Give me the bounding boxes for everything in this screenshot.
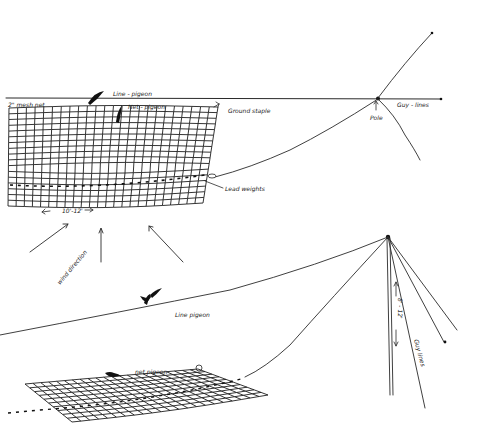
label-wind-direction: wind direction [55, 248, 88, 285]
ground-staple-icon [214, 102, 219, 107]
upper-swivel [208, 174, 216, 178]
mesh-line [32, 107, 35, 207]
label-lower-net-pigeon: net pigeon [135, 368, 167, 376]
mesh-line [57, 106, 62, 207]
label-lower-guy-lines: Guy lines [412, 338, 427, 367]
upper-guy-stake-right [440, 98, 443, 101]
mesh-line [73, 106, 79, 208]
upper-guy-line-bottom [378, 99, 420, 160]
mesh-line [146, 106, 157, 207]
lower-pull-line [245, 237, 388, 377]
lower-pole [387, 238, 390, 395]
upper-net-mesh [8, 106, 218, 208]
label-lead-weights: Lead weights [225, 185, 265, 193]
mesh-line [16, 108, 18, 207]
mesh-line [65, 106, 70, 207]
lower-line-pigeon-cord [0, 237, 388, 335]
mesh-line [24, 107, 26, 206]
mesh-line [41, 107, 44, 207]
upper-guy-line-top [378, 33, 432, 98]
mesh-line [195, 107, 209, 204]
label-net-width: 10'-12' [62, 207, 83, 214]
wind-arrow-right [149, 226, 183, 262]
mesh-line [8, 108, 9, 206]
label-line-pigeon: Line - pigeon [113, 90, 152, 98]
pigeon-net-diagram: Line - pigeon 2" mesh net Net - pigeon G… [0, 0, 480, 443]
label-mesh-net: 2" mesh net [8, 101, 45, 108]
mesh-line [203, 107, 218, 203]
mesh-line [49, 107, 53, 208]
label-pole-height: 8' - 12' [397, 298, 404, 319]
upper-line-pigeon-cord [6, 98, 441, 99]
label-guy-lines: Guy - lines [397, 101, 429, 109]
lower-net-pigeon-icon [105, 372, 121, 377]
flying-pigeon-icon [140, 288, 162, 305]
wind-arrow-left [30, 224, 68, 252]
label-net-pigeon: Net - pigeon [128, 103, 165, 111]
upper-setup: Line - pigeon 2" mesh net Net - pigeon G… [6, 32, 442, 286]
mesh-line [138, 106, 148, 207]
mesh-line [72, 395, 268, 422]
lead-weights-pointer [205, 181, 223, 188]
upper-guy-stake-top [431, 32, 434, 35]
lower-setup: Line pigeon net pigeon 8' - 12' Guy line… [0, 235, 457, 422]
mesh-line [179, 106, 192, 204]
mesh-line [187, 107, 201, 204]
label-lower-line-pigeon: Line pigeon [175, 311, 210, 319]
mesh-line [81, 106, 87, 208]
label-ground-staple: Ground staple [228, 107, 271, 115]
label-pole: Pole [370, 114, 383, 121]
ground-staple-loop [196, 365, 202, 371]
mesh-line [130, 106, 140, 207]
